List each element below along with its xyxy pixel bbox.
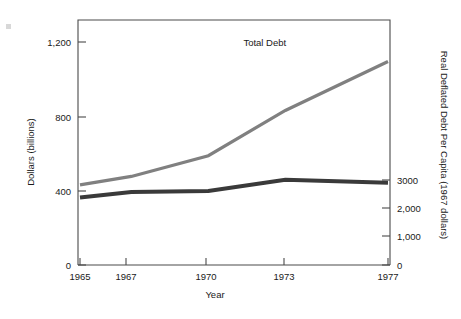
left-axis-ticks xyxy=(78,42,86,265)
x-tick-label-1965: 1965 xyxy=(69,271,90,282)
left-tick-label-400: 400 xyxy=(55,186,71,197)
series-label-total-debt: Total Debt xyxy=(243,37,286,48)
right-tick-label-0: 0 xyxy=(397,260,402,271)
chart-figure: 1,200 800 400 0 Dollars (billions) 3000 … xyxy=(0,0,461,319)
left-tick-label-1200: 1,200 xyxy=(47,37,71,48)
x-axis-title: Year xyxy=(205,289,224,300)
right-axis-ticks xyxy=(382,180,390,265)
left-axis-title: Dollars (billions) xyxy=(25,118,36,186)
plot-frame xyxy=(78,20,390,265)
right-axis-title: Real Deflated Debt Per Capita (1967 doll… xyxy=(439,51,450,240)
x-tick-label-1977: 1977 xyxy=(377,271,398,282)
series-line-real-debt-per-capita xyxy=(80,180,388,198)
x-axis-ticks xyxy=(80,258,388,265)
x-tick-label-1973: 1973 xyxy=(273,271,294,282)
right-tick-label-3000: 3000 xyxy=(397,175,418,186)
debt-line-chart: 1,200 800 400 0 Dollars (billions) 3000 … xyxy=(0,0,461,319)
scan-artifact xyxy=(6,24,11,29)
left-tick-label-800: 800 xyxy=(55,112,71,123)
right-tick-label-2000: 2,000 xyxy=(397,203,421,214)
left-tick-label-0: 0 xyxy=(66,260,71,271)
series-line-total-debt xyxy=(80,61,388,184)
right-tick-label-1000: 1,000 xyxy=(397,231,421,242)
x-tick-label-1967: 1967 xyxy=(115,271,136,282)
x-tick-label-1970: 1970 xyxy=(195,271,216,282)
